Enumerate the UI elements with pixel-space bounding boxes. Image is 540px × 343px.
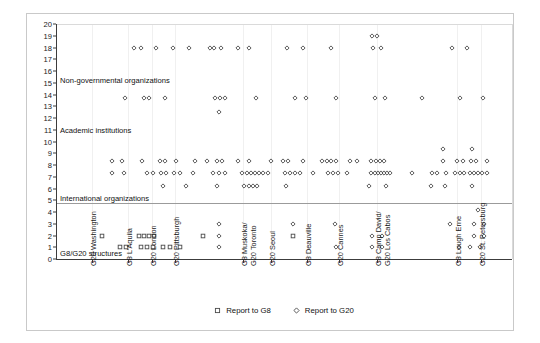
data-point [266, 170, 271, 175]
data-point [100, 233, 105, 238]
data-point [217, 245, 222, 250]
x-axis-label: G8 Muskoka/ [240, 222, 249, 266]
x-axis-label: G20 Toronto [249, 225, 258, 266]
data-point [355, 158, 360, 163]
data-point [336, 170, 341, 175]
y-tick-label: 5 [34, 196, 52, 205]
y-tick-mark [53, 71, 56, 72]
y-tick-label: 17 [34, 55, 52, 64]
data-point [334, 158, 339, 163]
data-point [286, 158, 291, 163]
y-tick-label: 19 [34, 31, 52, 40]
data-point [285, 45, 290, 50]
data-point [334, 96, 339, 101]
y-tick-label: 14 [34, 90, 52, 99]
x-axis-label: G8 Camp David/ [374, 211, 383, 266]
y-tick-mark [53, 94, 56, 95]
data-point [444, 170, 449, 175]
data-point [384, 183, 389, 188]
legend-item[interactable]: Report to G8 [214, 306, 271, 315]
data-point [367, 183, 372, 188]
y-tick-mark [53, 212, 56, 213]
y-tick-mark [53, 259, 56, 260]
data-point [373, 96, 378, 101]
x-axis-label: G20 Washington [89, 211, 98, 266]
data-point [247, 158, 252, 163]
data-point [217, 221, 222, 226]
x-axis-label: G8 Deauville [304, 224, 313, 266]
data-point [122, 170, 127, 175]
legend-item[interactable]: Report to G20 [293, 306, 354, 315]
data-point [236, 158, 241, 163]
data-point [304, 96, 309, 101]
data-point [382, 158, 387, 163]
data-point [139, 45, 144, 50]
y-tick-label: 7 [34, 172, 52, 181]
x-axis-label: G20 St. Petersburg [478, 203, 487, 266]
data-point [255, 183, 260, 188]
data-point [132, 45, 137, 50]
data-point [172, 170, 177, 175]
plot-right-border [512, 24, 513, 259]
data-point [212, 45, 217, 50]
data-point [163, 96, 168, 101]
y-tick-label: 0 [34, 255, 52, 264]
data-point [329, 45, 334, 50]
data-point [140, 158, 145, 163]
data-point [118, 245, 123, 250]
data-point [311, 170, 316, 175]
y-tick-mark [53, 153, 56, 154]
data-point [455, 158, 460, 163]
zone-label: Academic institutions [60, 125, 131, 134]
data-point [298, 170, 303, 175]
data-point [448, 221, 453, 226]
y-tick-label: 9 [34, 149, 52, 158]
data-point [161, 245, 166, 250]
gridline [152, 24, 153, 259]
chart-figure: Non-governmental organizationsAcademic i… [0, 0, 540, 343]
y-tick-mark [53, 47, 56, 48]
data-point [110, 158, 115, 163]
separator-line [56, 203, 512, 204]
data-point [161, 183, 166, 188]
plot-top-border [56, 24, 512, 25]
data-point [429, 183, 434, 188]
x-axis-label: G8 Lough Erne [454, 216, 463, 266]
gridline [271, 24, 272, 259]
data-point [485, 170, 490, 175]
data-point [145, 170, 150, 175]
data-point [485, 158, 490, 163]
data-point [217, 233, 222, 238]
data-point [147, 96, 152, 101]
data-point [151, 170, 156, 175]
y-tick-mark [53, 176, 56, 177]
y-tick-mark [53, 35, 56, 36]
x-axis-label: G20 London [149, 225, 158, 266]
y-tick-label: 13 [34, 102, 52, 111]
data-point [247, 45, 252, 50]
y-tick-label: 2 [34, 231, 52, 240]
data-point [371, 45, 376, 50]
y-tick-label: 16 [34, 67, 52, 76]
data-point [441, 158, 446, 163]
x-axis-label: G20 Los Cabos [383, 215, 392, 266]
x-axis-label: G20 Cannes [336, 225, 345, 267]
data-point [269, 158, 274, 163]
data-point [301, 158, 306, 163]
data-point [470, 146, 475, 151]
y-tick-mark [53, 247, 56, 248]
data-point [291, 221, 296, 226]
data-point [219, 45, 224, 50]
x-axis-label: G20 Pittsburgh [172, 217, 181, 266]
data-point [110, 170, 115, 175]
data-point [472, 221, 477, 226]
data-point [163, 158, 168, 163]
data-point [472, 233, 477, 238]
y-tick-mark [53, 165, 56, 166]
data-point [443, 183, 448, 188]
data-point [462, 170, 467, 175]
data-point [178, 170, 183, 175]
data-point [450, 45, 455, 50]
y-tick-label: 10 [34, 137, 52, 146]
data-point [205, 158, 210, 163]
